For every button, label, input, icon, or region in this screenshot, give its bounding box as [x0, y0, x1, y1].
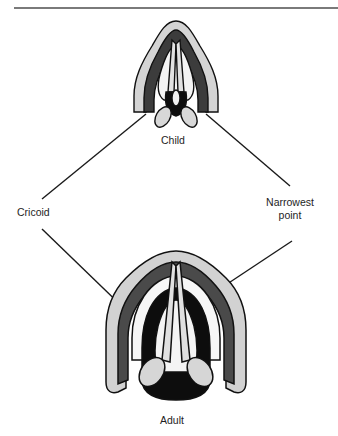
narrowest-label-line1: Narrowest	[266, 196, 314, 209]
adult-label: Adult	[160, 414, 184, 427]
narrowest-point-label: Narrowest point	[266, 196, 314, 222]
child-label: Child	[161, 134, 185, 147]
narrowest-label-line2: point	[266, 209, 314, 222]
child-to-narrowest-line	[206, 114, 290, 186]
child-larynx-icon	[134, 21, 218, 130]
child-to-cricoid-line	[42, 114, 146, 199]
cricoid-label: Cricoid	[17, 206, 50, 219]
adult-larynx-icon	[106, 251, 246, 400]
